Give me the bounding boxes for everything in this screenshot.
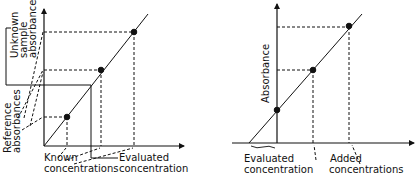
label-evaluated-right-line-2: concentration: [244, 164, 313, 175]
label-added-line-1: Added: [330, 153, 362, 164]
right-point-3: [346, 23, 352, 29]
label-evaluated-right-line-1: Evaluated: [244, 153, 294, 164]
label-reference-line-2: absorbances: [12, 89, 22, 153]
label-known-line-2: concentrations: [44, 163, 118, 174]
diagram-canvas: [0, 0, 416, 177]
label-unknown-line-3: absorbance: [28, 0, 38, 58]
label-added-line-2: concentrations: [329, 164, 403, 175]
label-evaluated-left-line-2: concentration: [119, 163, 188, 174]
label-known-line-1: Known: [44, 152, 78, 163]
right-evaluated-brace: [251, 146, 275, 148]
left-point-3: [131, 29, 137, 35]
right-point-1: [274, 107, 280, 113]
right-point-2: [310, 67, 316, 73]
left-point-2: [98, 67, 104, 73]
label-evaluated-left-line-1: Evaluated: [119, 152, 169, 163]
left-point-1: [64, 114, 70, 120]
label-absorbance-axis: Absorbance: [261, 44, 271, 103]
